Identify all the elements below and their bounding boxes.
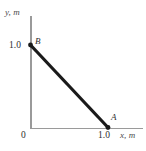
point-a-label: A	[111, 112, 117, 122]
bar-segment-graphic	[0, 0, 146, 151]
point-a-marker	[106, 125, 111, 130]
segment-ab	[31, 45, 109, 128]
point-b-label: B	[35, 36, 41, 46]
diagram-canvas: y, m x, m 1.0 0 1.0 B A	[0, 0, 146, 151]
point-b-marker	[28, 43, 33, 48]
